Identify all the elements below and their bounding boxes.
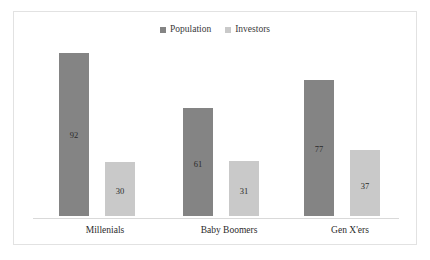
bar-population-millenials[interactable]: 92 (59, 53, 89, 216)
bar-value-population-gen-xers: 77 (304, 145, 334, 154)
bar-value-population-millenials: 92 (59, 131, 89, 140)
plot-area: 92 30 Millenials 61 31 Baby Boomers (14, 12, 416, 244)
bar-group-baby-boomers: 61 31 Baby Boomers (169, 38, 289, 216)
chart-container: Population Investors 92 30 Millenials (13, 11, 417, 245)
category-axis-line (33, 218, 399, 219)
bar-population-gen-xers[interactable]: 77 (304, 80, 334, 216)
bar-group-bars: 61 31 (169, 38, 289, 216)
category-label-millenials: Millenials (45, 225, 165, 235)
bar-group-gen-xers: 77 37 Gen X'ers (290, 38, 410, 216)
bar-value-investors-gen-xers: 37 (350, 182, 380, 191)
bar-value-investors-baby-boomers: 31 (229, 187, 259, 196)
bar-group-bars: 92 30 (45, 38, 165, 216)
bar-population-baby-boomers[interactable]: 61 (183, 108, 213, 216)
category-label-gen-xers: Gen X'ers (290, 225, 410, 235)
bar-value-population-baby-boomers: 61 (183, 160, 213, 169)
bar-investors-gen-xers[interactable]: 37 (350, 150, 380, 216)
category-label-baby-boomers: Baby Boomers (169, 225, 289, 235)
bar-investors-millenials[interactable]: 30 (105, 162, 135, 216)
bar-group-bars: 77 37 (290, 38, 410, 216)
bar-value-investors-millenials: 30 (105, 187, 135, 196)
bar-group-millenials: 92 30 Millenials (45, 38, 165, 216)
bar-investors-baby-boomers[interactable]: 31 (229, 161, 259, 216)
